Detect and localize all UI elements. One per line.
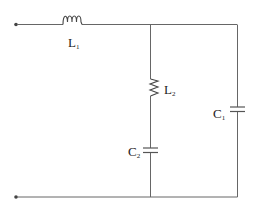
inductor-l1 [63,16,82,25]
label-c2: C2 [128,144,141,160]
label-l1: L1 [68,35,80,51]
capacitor-c2 [143,148,158,153]
capacitor-c1 [230,107,245,112]
label-c1: C1 [213,106,226,122]
inductor-l2 [150,79,158,96]
label-l2: L2 [164,82,176,98]
circuit-diagram: L1 L2 C2 C1 [0,0,256,214]
